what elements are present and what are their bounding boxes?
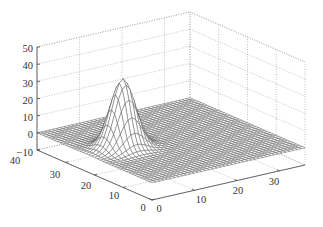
x-tick-20: 20 [233,185,244,196]
surface-plot: 50 40 30 20 10 0 −10 40 30 20 10 0 0 10 … [0,0,323,227]
x-tick-0: 0 [156,203,161,214]
z-tick-0: 0 [28,129,33,140]
z-tick-30: 30 [23,78,34,89]
y-tick-20: 20 [81,180,92,191]
z-tick-20: 20 [23,95,34,106]
z-tick-50: 50 [23,43,34,54]
y-tick-40: 40 [10,155,21,166]
y-tick-30: 30 [50,169,61,180]
y-tick-10: 10 [109,190,120,201]
x-tick-10: 10 [196,194,207,205]
z-tick-40: 40 [23,60,34,71]
y-tick-0: 0 [140,202,145,213]
z-tick-10: 10 [23,112,34,123]
x-tick-30: 30 [269,176,280,187]
